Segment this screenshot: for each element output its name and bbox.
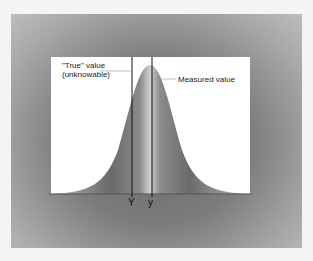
normal-distribution-curve (0, 0, 313, 261)
measured-value-label: Measured value (178, 75, 235, 84)
true-value-label-line2: (unknowable) (62, 70, 110, 79)
measured-value-axis-label: y (148, 197, 153, 208)
true-value-label-line1: "True" value (62, 61, 110, 70)
true-value-label: "True" value (unknowable) (62, 61, 110, 79)
true-value-axis-label: Y (128, 197, 135, 208)
